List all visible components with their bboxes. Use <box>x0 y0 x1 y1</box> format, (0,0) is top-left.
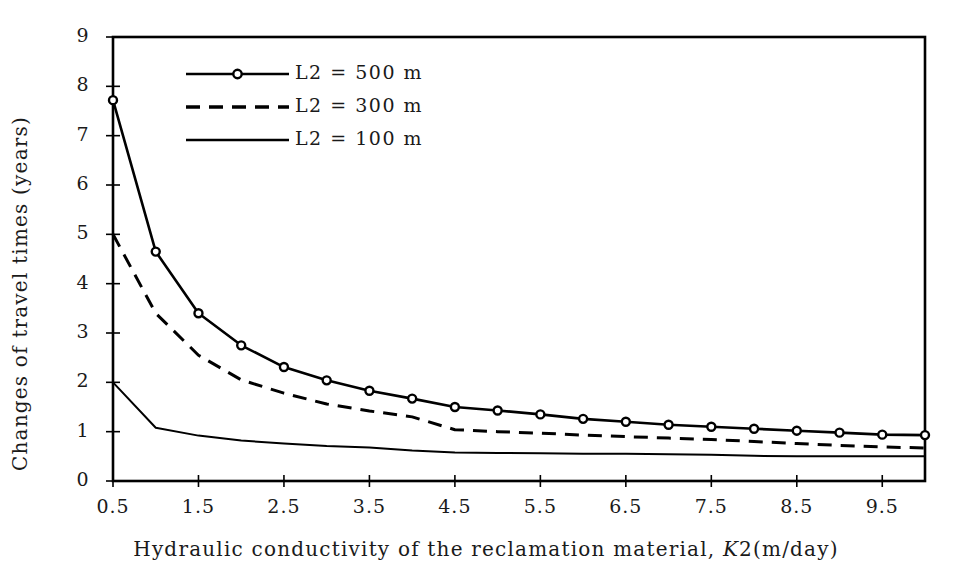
y-tick-label: 3 <box>43 320 89 342</box>
x-tick-label: 0.5 <box>73 495 153 517</box>
y-tick-label: 8 <box>43 73 89 95</box>
x-axis-title-main: Hydraulic conductivity of the reclamatio… <box>133 537 723 561</box>
chart-figure: Hydraulic conductivity of the reclamatio… <box>0 0 972 587</box>
x-tick-label: 3.5 <box>329 495 409 517</box>
legend-marker <box>233 70 241 78</box>
series-marker <box>280 363 288 371</box>
y-tick-label: 9 <box>43 24 89 46</box>
y-tick-label: 5 <box>43 221 89 243</box>
series-marker <box>665 421 673 429</box>
x-tick-label: 2.5 <box>244 495 324 517</box>
y-tick-label: 0 <box>43 468 89 490</box>
series-marker <box>494 406 502 414</box>
y-axis-title: Changes of travel times (years) <box>0 0 40 587</box>
x-tick-label: 1.5 <box>158 495 238 517</box>
legend-label-1: L2 = 500 m <box>295 61 423 83</box>
series-marker <box>237 341 245 349</box>
x-tick-label: 6.5 <box>586 495 666 517</box>
y-tick-label: 4 <box>43 271 89 293</box>
series-marker <box>194 309 202 317</box>
x-axis-title-symbol: K <box>723 537 739 561</box>
legend-label-2: L2 = 300 m <box>295 94 423 116</box>
series-marker <box>152 248 160 256</box>
series-marker <box>365 387 373 395</box>
series-marker <box>878 431 886 439</box>
y-tick-label: 7 <box>43 123 89 145</box>
series-marker <box>323 376 331 384</box>
x-tick-label: 9.5 <box>842 495 922 517</box>
series-marker <box>793 427 801 435</box>
series-marker <box>451 403 459 411</box>
series-marker <box>750 425 758 433</box>
x-tick-label: 4.5 <box>415 495 495 517</box>
legend-label-3: L2 = 100 m <box>295 127 423 149</box>
x-axis-title: Hydraulic conductivity of the reclamatio… <box>0 537 972 561</box>
x-tick-label: 8.5 <box>757 495 837 517</box>
x-axis-title-tail: 2(m/day) <box>739 537 839 561</box>
series-marker <box>109 96 117 104</box>
y-tick-label: 1 <box>43 419 89 441</box>
x-tick-label: 5.5 <box>500 495 580 517</box>
plot-border <box>113 37 925 481</box>
series-marker <box>836 429 844 437</box>
series-marker <box>536 410 544 418</box>
series-marker <box>579 415 587 423</box>
y-tick-label: 2 <box>43 369 89 391</box>
series-marker <box>408 395 416 403</box>
series-marker <box>622 418 630 426</box>
series-marker <box>921 431 929 439</box>
series-marker <box>707 423 715 431</box>
plot-frame <box>113 37 925 481</box>
x-tick-label: 7.5 <box>671 495 751 517</box>
y-tick-label: 6 <box>43 172 89 194</box>
